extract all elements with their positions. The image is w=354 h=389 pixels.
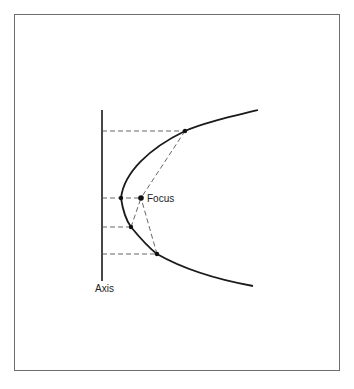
focus-label: Focus <box>147 193 174 204</box>
dash-upper-to-focus <box>141 131 185 198</box>
point-upper <box>183 129 187 133</box>
point-lower-far <box>155 252 159 256</box>
dash-lower-near-to-focus <box>131 198 141 227</box>
point-vertex <box>119 196 123 200</box>
parabola-diagram: Focus Axis <box>0 0 354 389</box>
dash-lower-far-to-focus <box>141 198 157 254</box>
point-focus <box>138 195 144 201</box>
point-lower-near <box>129 225 133 229</box>
axis-label: Axis <box>95 283 114 294</box>
